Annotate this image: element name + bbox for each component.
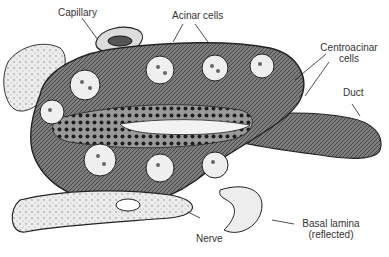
- label-centroacinar-line1: Centroacinar: [314, 42, 384, 53]
- label-basal-lamina-line2: (reflected): [296, 229, 366, 240]
- label-acinar-cells: Acinar cells: [172, 10, 223, 21]
- label-nerve: Nerve: [196, 233, 223, 244]
- label-basal-lamina: Basal lamina (reflected): [296, 218, 366, 240]
- label-capillary: Capillary: [58, 7, 97, 18]
- label-duct: Duct: [343, 87, 364, 98]
- label-basal-lamina-line1: Basal lamina: [296, 218, 366, 229]
- nerve-drawing: [12, 191, 192, 232]
- label-centroacinar-line2: cells: [314, 53, 384, 64]
- basal-lamina-drawing: [220, 187, 262, 233]
- label-centroacinar-cells: Centroacinar cells: [314, 42, 384, 64]
